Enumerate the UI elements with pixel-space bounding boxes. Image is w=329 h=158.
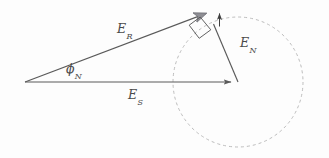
signal-vector-label: ES <box>128 86 143 105</box>
signal-subscript: S <box>137 98 142 107</box>
right-angle-marker-icon <box>189 17 211 38</box>
resultant-subscript: R <box>126 32 132 41</box>
resultant-symbol: E <box>117 21 126 36</box>
noise-vector-label: EN <box>240 34 256 53</box>
phase-angle-subscript: N <box>75 72 82 81</box>
phasor-diagram-canvas <box>0 0 329 158</box>
phase-angle-symbol: ϕ <box>66 61 75 76</box>
phasor-diagram-figure: ER ES EN ϕN <box>0 0 329 158</box>
phase-angle-label: ϕN <box>66 60 82 79</box>
resultant-vector-line <box>25 14 206 82</box>
noise-vector-line <box>214 24 239 82</box>
noise-symbol: E <box>240 35 249 50</box>
signal-symbol: E <box>128 87 137 102</box>
resultant-vector-label: ER <box>117 20 132 39</box>
noise-subscript: N <box>249 46 256 55</box>
